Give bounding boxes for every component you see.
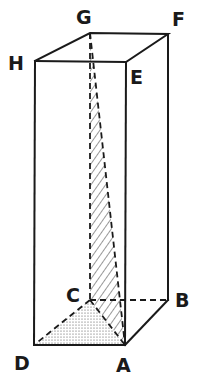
vertex-label-h: H — [8, 52, 24, 74]
prism-diagram: G F H E C B D A — [0, 0, 201, 377]
vertex-label-d: D — [14, 352, 30, 374]
top-face — [35, 33, 168, 62]
vertex-label-g: G — [76, 6, 92, 28]
vertex-label-a: A — [116, 354, 131, 376]
vertex-label-c: C — [66, 284, 80, 306]
edge-hd — [34, 61, 35, 345]
edge-ea — [125, 62, 126, 345]
hatched-triangle-acg — [90, 33, 125, 345]
vertex-label-e: E — [130, 66, 143, 88]
vertex-label-b: B — [175, 289, 189, 311]
edge-ab — [125, 300, 168, 345]
vertex-label-f: F — [172, 8, 185, 30]
